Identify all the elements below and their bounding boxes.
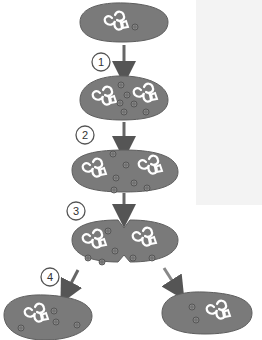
cell-stage-2 — [72, 150, 178, 193]
cell-stage-3 — [72, 220, 178, 265]
cell-stage-0 — [80, 3, 168, 42]
arrow-4-right — [164, 268, 178, 290]
svg-text:3: 3 — [73, 205, 79, 217]
stage-label-1: 1 — [92, 53, 110, 71]
cell-stage-1 — [80, 76, 168, 120]
steps-text-panel: 1) The The bu 2) The to 3) The (ar 4) Th… — [196, 0, 262, 205]
svg-text:4: 4 — [47, 271, 53, 283]
daughter-cell-right — [162, 292, 252, 334]
arrow-4-left — [66, 270, 78, 293]
daughter-cell-left — [4, 295, 92, 340]
stage-label-2: 2 — [76, 126, 94, 144]
svg-text:2: 2 — [82, 129, 88, 141]
stage-label-3: 3 — [67, 202, 85, 220]
stage-label-4: 4 — [41, 268, 59, 286]
svg-text:1: 1 — [98, 56, 104, 68]
